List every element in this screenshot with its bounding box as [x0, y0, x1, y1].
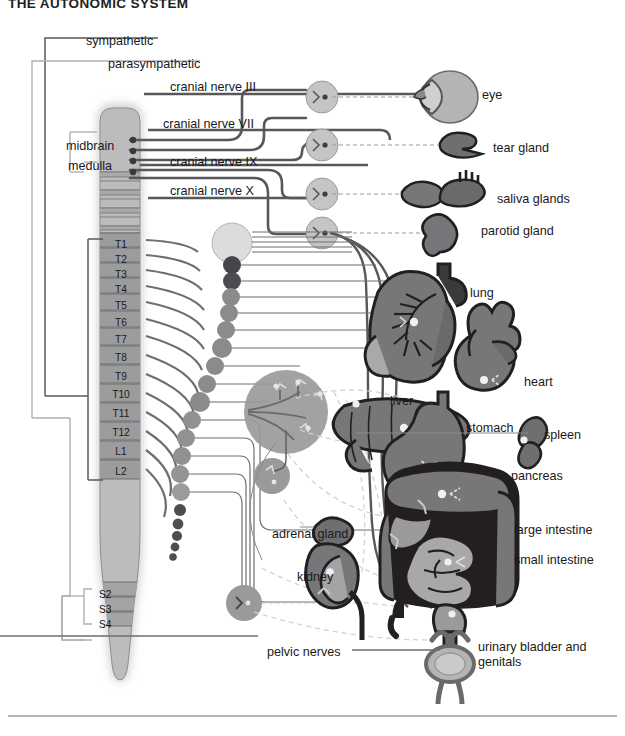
- sacral-segment-s2: S2: [99, 589, 111, 600]
- autonomic-system-diagram: THE AUTONOMIC SYSTEM sympatheticparasymp…: [0, 0, 625, 736]
- cranial-nerve-label-cn10: cranial nerve X: [170, 184, 254, 199]
- page-title: THE AUTONOMIC SYSTEM: [8, 0, 189, 11]
- organ-label-liver: liver: [390, 394, 413, 409]
- spinal-segment-t11: T11: [96, 408, 146, 419]
- brain-label-midbrain: midbrain: [66, 139, 114, 154]
- spinal-segment-l2: L2: [96, 466, 146, 477]
- kidney-organ: [306, 544, 362, 640]
- spinal-segment-t10: T10: [96, 389, 146, 400]
- brain-label-medulla: medulla: [68, 159, 112, 174]
- sacral-segment-s3: S3: [99, 604, 111, 615]
- spinal-segment-t3: T3: [96, 269, 146, 280]
- sacral-segment-s4: S4: [99, 619, 111, 630]
- organ-label-tear-gland: tear gland: [493, 141, 549, 156]
- spinal-segment-t12: T12: [96, 427, 146, 438]
- spinal-segment-t7: T7: [96, 334, 146, 345]
- spinal-segment-t8: T8: [96, 352, 146, 363]
- organ-label-spleen: spleen: [544, 428, 581, 443]
- cranial-label-leaders: [140, 94, 420, 198]
- organ-label-large-intestine: large intestine: [514, 523, 592, 538]
- bladder-label-line2: genitals: [478, 655, 587, 670]
- cranial-nerve-label-cn9: cranial nerve IX: [170, 155, 258, 170]
- diagram-canvas: [0, 0, 625, 736]
- spleen-organ: [518, 417, 547, 468]
- spinal-segment-t5: T5: [96, 300, 146, 311]
- parotid-gland-organ: [422, 214, 457, 256]
- pelvic-nerve-leader: [0, 636, 440, 650]
- bladder-label-line1: urinary bladder and: [478, 640, 587, 655]
- spinal-segment-t1: T1: [96, 239, 146, 250]
- organ-label-adrenal-gland: adrenal gland: [272, 527, 348, 542]
- spinal-segment-t2: T2: [96, 254, 146, 265]
- heart-organ: [455, 302, 520, 390]
- eye-organ: [414, 71, 478, 123]
- organ-label-saliva-glands: saliva glands: [497, 192, 570, 207]
- branch-label-sympathetic: sympathetic: [86, 34, 153, 48]
- spinal-segment-t9: T9: [96, 371, 146, 382]
- organ-label-pancreas: pancreas: [511, 469, 563, 484]
- organ-label-eye: eye: [482, 88, 502, 103]
- tear-gland-organ: [440, 133, 482, 158]
- saliva-glands-organ: [402, 170, 485, 207]
- cranial-nerve-label-cn7: cranial nerve VII: [163, 117, 254, 132]
- organ-label-small-intestine: small intestine: [514, 553, 594, 568]
- organ-label-stomach: stomach: [466, 421, 514, 436]
- organ-label-heart: heart: [524, 375, 553, 390]
- sympathetic-chain: [169, 223, 252, 561]
- organ-label-pelvic-nerves: pelvic nerves: [267, 645, 341, 660]
- bladder-organ: [426, 632, 474, 704]
- cranial-nerve-label-cn3: cranial nerve III: [170, 80, 256, 95]
- spinal-segment-l1: L1: [96, 446, 146, 457]
- small-intestine-organ: [406, 536, 474, 606]
- organ-label-lung: lung: [470, 286, 494, 301]
- organ-label-parotid-gland: parotid gland: [481, 224, 554, 239]
- branch-label-parasympathetic: parasympathetic: [108, 57, 200, 71]
- organ-label-urinary-bladder-genitals: urinary bladder andgenitals: [478, 640, 587, 670]
- spinal-segment-t4: T4: [96, 284, 146, 295]
- spinal-segment-t6: T6: [96, 317, 146, 328]
- organ-label-kidney: kidney: [297, 570, 333, 585]
- sacral-bracket: [62, 596, 84, 640]
